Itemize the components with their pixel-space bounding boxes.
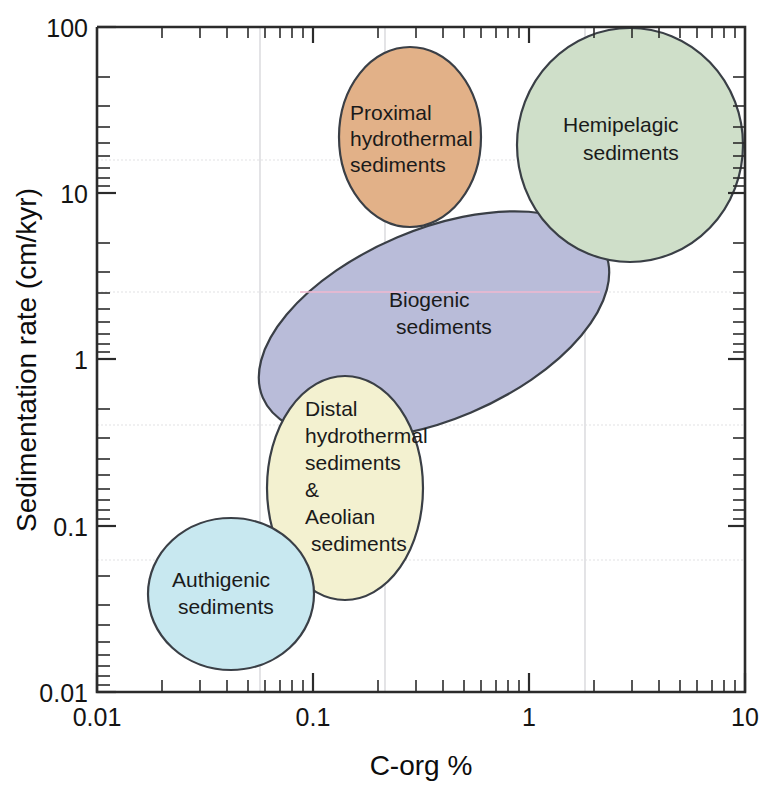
label-authigenic-line1: Authigenic xyxy=(172,568,270,591)
label-hemipelagic-line2: sediments xyxy=(583,141,679,164)
label-proximal-line1: Proximal xyxy=(350,101,432,124)
label-proximal-line3: sediments xyxy=(350,153,446,176)
y-tick-label-100: 100 xyxy=(46,14,88,42)
label-authigenic-line2: sediments xyxy=(178,595,274,618)
x-tick-label-0.1: 0.1 xyxy=(296,703,331,731)
y-tick-label-10: 10 xyxy=(60,180,88,208)
label-distal-line3: sediments xyxy=(305,451,401,474)
region-authigenic-sediments xyxy=(148,518,314,670)
sedimentation-rate-vs-corg-chart: Proximal hydrothermal sediments Hemipela… xyxy=(0,0,767,796)
label-distal-line4: & xyxy=(305,478,319,501)
region-authigenic-shape xyxy=(148,518,314,670)
label-biogenic-line2: sediments xyxy=(396,315,492,338)
label-hemipelagic-line1: Hemipelagic xyxy=(563,113,679,136)
label-distal-line5: Aeolian xyxy=(305,505,375,528)
y-tick-label-1: 1 xyxy=(74,346,88,374)
label-biogenic-line1: Biogenic xyxy=(389,288,470,311)
x-tick-label-0.01: 0.01 xyxy=(73,703,122,731)
x-tick-label-1: 1 xyxy=(522,703,536,731)
label-distal-line1: Distal xyxy=(305,397,358,420)
x-tick-label-10: 10 xyxy=(731,703,759,731)
label-distal-line6: sediments xyxy=(311,532,407,555)
label-distal-line2: hydrothermal xyxy=(305,424,428,447)
y-axis-title: Sedimentation rate (cm/kyr) xyxy=(11,188,42,532)
label-proximal-line2: hydrothermal xyxy=(350,127,473,150)
x-axis-title: C-org % xyxy=(370,750,473,781)
y-tick-label-0.1: 0.1 xyxy=(53,513,88,541)
